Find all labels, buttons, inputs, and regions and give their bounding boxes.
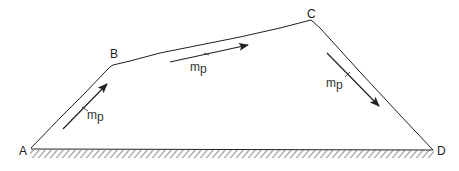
path-diagram (0, 0, 459, 171)
force-label-CD: mp (326, 77, 343, 89)
force-label-BC-main: m (190, 60, 200, 74)
segment-BC (113, 20, 311, 65)
force-label-CD-sub: p (336, 78, 343, 92)
force-label-AB-main: m (87, 108, 97, 122)
force-label-AB: mp (87, 109, 104, 121)
ground-line-AD (31, 149, 433, 150)
point-label-C: C (307, 8, 316, 20)
point-label-B: B (110, 48, 118, 60)
arrow-BC-icon (170, 45, 248, 62)
force-label-AB-sub: p (97, 110, 104, 124)
force-label-BC: mp (190, 61, 207, 73)
force-label-BC-sub: p (200, 62, 207, 76)
ground-hatching (30, 150, 434, 158)
force-label-CD-main: m (326, 76, 336, 90)
segment-AB (31, 65, 113, 148)
point-label-A: A (19, 145, 27, 157)
point-label-D: D (437, 145, 446, 157)
